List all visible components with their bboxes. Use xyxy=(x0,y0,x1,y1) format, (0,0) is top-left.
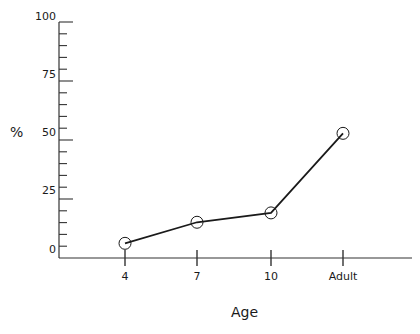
y-tick-label-0: 0 xyxy=(26,244,56,256)
y-tick-label-50: 50 xyxy=(26,127,56,139)
x-tick-label-adult: Adult xyxy=(318,271,368,283)
y-tick-label-25: 25 xyxy=(26,185,56,197)
x-tick-label-4: 4 xyxy=(100,271,150,283)
x-axis-title: Age xyxy=(231,304,258,320)
y-tick-label-100: 100 xyxy=(26,11,56,23)
axes xyxy=(59,22,412,266)
x-tick-label-7: 7 xyxy=(172,271,222,283)
x-tick-label-10: 10 xyxy=(246,271,296,283)
y-axis-title: % xyxy=(10,124,23,140)
data-series xyxy=(119,127,349,249)
line-chart: 100 75 50 25 0 % 4 7 10 Adult Age xyxy=(0,0,420,334)
plot-area xyxy=(0,0,420,334)
series-line xyxy=(125,133,343,243)
y-tick-label-75: 75 xyxy=(26,69,56,81)
